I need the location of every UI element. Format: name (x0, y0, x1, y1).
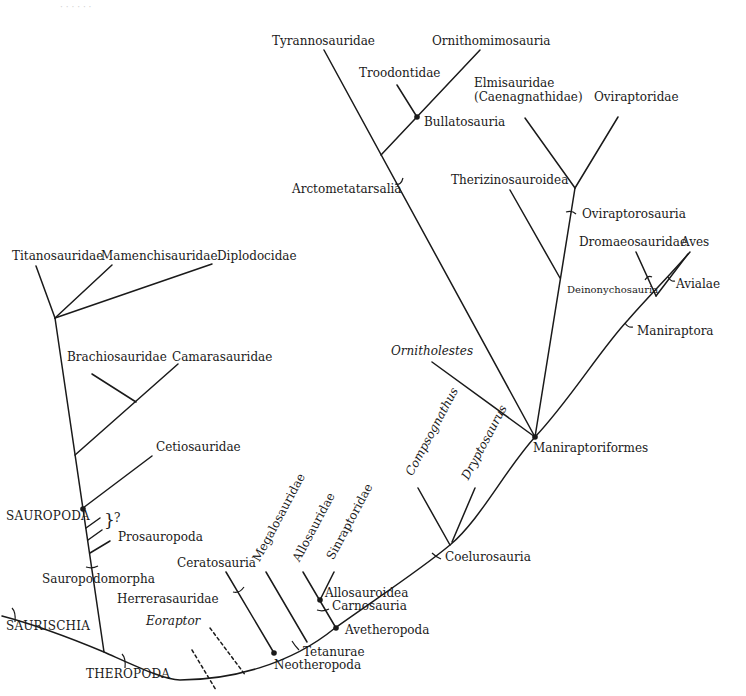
stem-marker-tetanurae (292, 641, 299, 650)
cladogram-canvas: · · · · · · SAURISCHIA THEROPODA Sauropo… (0, 0, 746, 696)
branch-tyrannosaur-line (324, 50, 535, 437)
label-therizinosauroidea: Therizinosauroidea (451, 173, 568, 187)
scan-artifact: · · · · · · (60, 2, 91, 12)
label-ornitholestes: Ornitholestes (391, 344, 473, 358)
label-tyrannosauridae: Tyrannosauridae (272, 34, 375, 48)
branch-brachiosauridae (92, 374, 136, 402)
node-bullatosauria (414, 114, 420, 120)
label-maniraptora: Maniraptora (637, 324, 714, 338)
label-prosauropoda: Prosauropoda (118, 530, 203, 544)
label-elmisauridae: Elmisauridae (474, 76, 554, 90)
label-bullatosauria: Bullatosauria (424, 115, 505, 129)
branch-ceratosauria (226, 572, 274, 653)
node-allosauroidea (317, 597, 323, 603)
branch-therizinosauroidea (510, 190, 560, 278)
branch-mamenchisauridae (55, 265, 112, 318)
branch-eoraptor (192, 650, 216, 690)
branch-herrerasauridae (210, 628, 246, 676)
node-avetheropoda (333, 625, 339, 631)
label-theropoda: THEROPODA (86, 667, 170, 681)
label-tetanurae: Tetanurae (303, 645, 365, 659)
label-coelurosauria: Coelurosauria (445, 550, 531, 564)
branch-oviraptoridae (575, 117, 618, 188)
label-dromaeosauridae: Dromaeosauridae (579, 235, 687, 249)
node-maniraptoriformes (532, 434, 538, 440)
label-herrerasauridae: Herrerasauridae (117, 592, 219, 606)
label-sauropodomorpha: Sauropodomorpha (42, 572, 155, 586)
stem-marker-maniraptora (625, 323, 633, 327)
label-saurischia: SAURISCHIA (6, 619, 90, 633)
label-aves: Aves (681, 235, 709, 249)
backbone-branch (2, 252, 690, 680)
label-titanosauridae: Titanosauridae (12, 249, 103, 263)
label-avetheropoda: Avetheropoda (345, 623, 429, 637)
label-allosauroidea: Allosauroidea (325, 586, 408, 600)
label-camarasauridae: Camarasauridae (172, 350, 272, 364)
label-oviraptorosauria: Oviraptorosauria (582, 207, 686, 221)
label-ornithomimosauria: Ornithomimosauria (432, 34, 551, 48)
label-maniraptoriformes: Maniraptoriformes (533, 441, 648, 455)
branch-compsognathus (418, 488, 450, 545)
branch-titanosauridae (36, 266, 55, 318)
branch-diplodocidae (55, 264, 212, 318)
branch-prosauropoda-2 (88, 530, 102, 540)
branch-cetiosauridae (83, 456, 152, 508)
node-neotheropoda (271, 650, 277, 656)
label-question: ? (114, 511, 120, 525)
label-troodontidae: Troodontidae (359, 66, 440, 80)
label-avialae: Avialae (676, 277, 720, 291)
label-ceratosauria: Ceratosauria (177, 556, 256, 570)
label-arctometatarsalia: Arctometatarsalia (292, 182, 401, 196)
branch-troodontidae (397, 85, 417, 117)
label-sauropoda: SAUROPODA (6, 509, 90, 523)
label-neotheropoda: Neotheropoda (274, 658, 361, 672)
label-deinonychosauria: Deinonychosauria (567, 283, 658, 297)
label-brachiosauridae: Brachiosauridae (67, 350, 167, 364)
label-cetiosauridae: Cetiosauridae (156, 440, 241, 454)
label-diplodocidae: Diplodocidae (217, 249, 297, 263)
sauropodomorph-trunk (55, 318, 104, 652)
label-caenagnathidae: (Caenagnathidae) (474, 90, 583, 104)
label-oviraptoridae: Oviraptoridae (594, 90, 679, 104)
branch-prosauropoda-3 (90, 541, 110, 553)
branch-dryptosaurus (452, 488, 475, 542)
branch-maniraptora-main (535, 188, 575, 437)
label-mamenchisauridae: Mamenchisauridae (101, 249, 218, 263)
stem-marker-carnosauria (317, 609, 329, 611)
stem-marker-avialae (668, 277, 675, 281)
label-carnosauria: Carnosauria (332, 599, 407, 613)
branch-megalosauridae (266, 572, 307, 642)
label-eoraptor: Eoraptor (146, 614, 200, 628)
